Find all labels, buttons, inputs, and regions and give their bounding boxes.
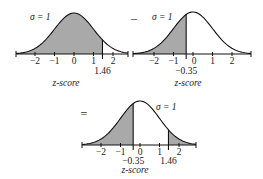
tick-label: 0 [192, 56, 197, 66]
normal-curve-panel-3: −2−1012−0.351.46σ = 1z-score [82, 101, 196, 175]
shaded-right-tail [168, 130, 196, 145]
sigma-label: σ = 1 [30, 12, 51, 22]
tick-label: −1 [49, 56, 59, 66]
tick-label: 1 [91, 56, 96, 66]
tick-label: 2 [177, 147, 182, 157]
tick-label: 0 [72, 56, 77, 66]
tick-label: 2 [230, 56, 235, 66]
sigma-label: σ = 1 [156, 102, 177, 112]
normal-curve-panel-2: −2−1012−0.35σ = 1z-score [133, 12, 251, 88]
axis-title: z-score [120, 165, 148, 175]
tick-label: 1 [210, 56, 215, 66]
shaded-left-tail [82, 104, 133, 145]
normal-distribution-diagram: −2−10121.46σ = 1z-score−2−1012−0.35σ = 1… [0, 0, 263, 179]
tick-label: −1 [168, 56, 178, 66]
sigma-label: σ = 1 [152, 12, 173, 22]
minus-operator: – [130, 11, 138, 25]
z-marker-label: 1.46 [94, 66, 111, 76]
axis-title: z-score [173, 78, 201, 88]
z-marker-label: 1.46 [160, 156, 177, 166]
normal-curve-panel-1: −2−10121.46σ = 1z-score [16, 12, 128, 88]
shaded-area [16, 13, 102, 54]
tick-label: −2 [96, 147, 106, 157]
tick-label: −2 [149, 56, 159, 66]
equals-operator: = [81, 107, 88, 121]
axis-title: z-score [51, 78, 79, 88]
tick-label: 2 [111, 56, 116, 66]
z-marker-label: −0.35 [175, 66, 197, 76]
bell-curve [82, 101, 196, 144]
tick-label: −2 [30, 56, 40, 66]
bell-curve [133, 12, 251, 54]
